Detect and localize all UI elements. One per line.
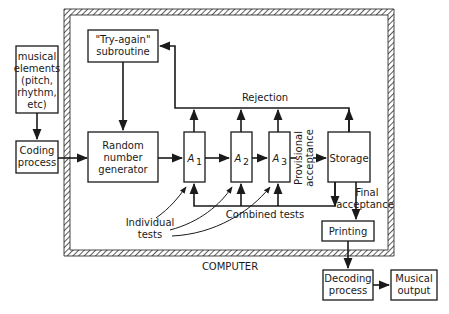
printing-label: Printing — [329, 226, 367, 237]
output-line-1: Musical — [395, 273, 432, 284]
algorithmic-composition-diagram: musical elements (pitch, rhythm, etc) Co… — [0, 0, 449, 314]
test-a3-node: A 3 — [269, 132, 290, 182]
musical-elements-node: musical elements (pitch, rhythm, etc) — [14, 46, 60, 113]
rng-line-1: Random — [102, 140, 143, 151]
provisional-line-1: Provisional — [293, 131, 304, 185]
test-a1-node: A 1 — [184, 132, 205, 182]
musical-elements-line-3: (pitch, — [21, 75, 53, 86]
try-again-subroutine-node: "Try-again" subroutine — [88, 30, 158, 62]
musical-elements-line-4: rhythm, — [17, 87, 56, 98]
rng-line-3: generator — [98, 164, 148, 175]
rejection-label: Rejection — [242, 92, 288, 103]
a2-label: A — [234, 153, 242, 164]
rejection-bus: Rejection — [160, 46, 349, 132]
combined-tests-label: Combined tests — [226, 209, 304, 220]
coding-line-2: process — [18, 157, 56, 168]
a2-subscript: 2 — [243, 156, 249, 167]
try-again-line-2: subroutine — [96, 46, 149, 57]
a3-label: A — [272, 153, 280, 164]
computer-label: COMPUTER — [202, 261, 258, 272]
storage-label: Storage — [329, 153, 368, 164]
a1-subscript: 1 — [196, 156, 202, 167]
final-acceptance-line-1: Final — [355, 187, 378, 198]
storage-node: Storage — [328, 132, 370, 182]
random-number-generator-node: Random number generator — [88, 132, 158, 182]
rng-line-2: number — [103, 152, 143, 163]
final-acceptance-line-2: acceptance — [336, 199, 394, 210]
individual-tests-line-2: tests — [138, 229, 162, 240]
provisional-acceptance-label: Provisional acceptance — [293, 129, 315, 187]
decoding-line-2: process — [329, 285, 367, 296]
musical-elements-line-2: elements — [14, 63, 60, 74]
printing-node: Printing — [322, 221, 374, 241]
coding-process-node: Coding process — [16, 141, 58, 173]
test-a2-node: A 2 — [231, 132, 252, 182]
decoding-process-node: Decoding process — [323, 270, 373, 300]
individual-tests-line-1: Individual — [126, 217, 175, 228]
musical-elements-line-1: musical — [18, 51, 56, 62]
try-again-line-1: "Try-again" — [95, 34, 150, 45]
a1-label: A — [187, 153, 195, 164]
output-line-2: output — [398, 285, 431, 296]
provisional-line-2: acceptance — [304, 129, 315, 187]
coding-line-1: Coding — [20, 145, 55, 156]
musical-elements-line-5: etc) — [27, 99, 47, 110]
musical-output-node: Musical output — [391, 270, 437, 300]
a3-subscript: 3 — [281, 156, 287, 167]
decoding-line-1: Decoding — [324, 273, 371, 284]
